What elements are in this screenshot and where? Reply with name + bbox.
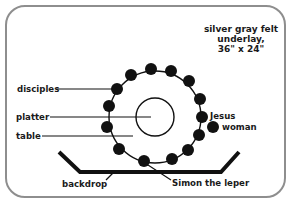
label-platter: platter [16,113,49,122]
disciple-dot [166,153,178,165]
title-line-3: 36" x 24" [198,44,284,54]
disciple-dot [103,100,115,112]
label-disciples: disciples [17,85,59,94]
disciple-dot [145,63,157,75]
label-woman: woman [222,123,257,132]
disciple-dot [194,93,206,105]
jesus-dot [196,111,208,123]
label-simon: Simon the leper [172,179,249,188]
disciple-dot [113,143,125,155]
disciple-dot [101,121,113,133]
title-line-2: underlay, [198,34,284,44]
disciple-dot [182,144,194,156]
woman-dot [207,121,219,133]
figures [101,63,219,167]
disciple-dot [165,65,177,77]
label-backdrop: backdrop [62,180,107,189]
disciple-dot [183,75,195,87]
label-jesus: Jesus [210,112,235,121]
disciple-dot [193,129,205,141]
underlay-title: silver gray felt underlay, 36" x 24" [198,24,284,54]
title-line-1: silver gray felt [198,24,284,34]
disciple-dot [125,69,137,81]
simon-dot [138,155,150,167]
label-table: table [16,132,41,141]
disciple-dot [111,83,123,95]
